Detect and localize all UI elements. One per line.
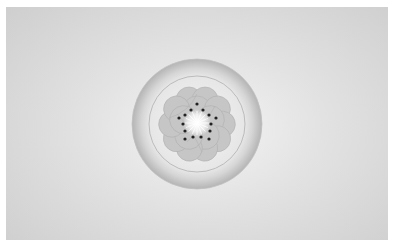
center-glow (183, 109, 211, 137)
flower-emblem-artwork (0, 0, 393, 246)
